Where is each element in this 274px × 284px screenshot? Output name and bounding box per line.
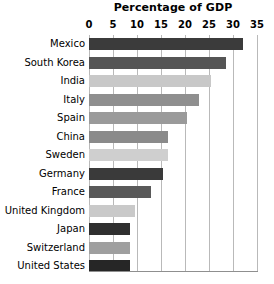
bar — [89, 223, 130, 235]
category-label: United States — [0, 260, 85, 272]
plot-area — [89, 35, 257, 272]
x-tick-label-5: 5 — [110, 19, 117, 30]
bar — [89, 57, 226, 69]
category-labels: MexicoSouth KoreaIndiaItalySpainChinaSwe… — [0, 35, 85, 272]
category-label: Switzerland — [0, 242, 85, 254]
x-tick-label-15: 15 — [154, 19, 168, 30]
category-label: Germany — [0, 168, 85, 180]
bar — [89, 168, 163, 180]
bars-group — [89, 35, 257, 272]
category-label: China — [0, 131, 85, 143]
x-tick-label-25: 25 — [202, 19, 216, 30]
category-label: Italy — [0, 94, 85, 106]
x-tick-label-30: 30 — [226, 19, 240, 30]
x-tick-label-35: 35 — [250, 19, 264, 30]
category-label: India — [0, 75, 85, 87]
bar — [89, 112, 187, 124]
bar — [89, 242, 130, 254]
category-label: Spain — [0, 112, 85, 124]
bar — [89, 149, 168, 161]
category-label: Japan — [0, 223, 85, 235]
bar — [89, 38, 243, 50]
bar — [89, 131, 168, 143]
chart-title: Percentage of GDP — [88, 1, 258, 14]
x-axis-line — [89, 271, 258, 272]
category-label: Sweden — [0, 149, 85, 161]
x-tick-label-0: 0 — [86, 19, 93, 30]
category-label: South Korea — [0, 57, 85, 69]
gridline-35 — [257, 35, 258, 272]
x-tick-label-10: 10 — [130, 19, 144, 30]
category-label: United Kingdom — [0, 205, 85, 217]
bar — [89, 205, 135, 217]
bar-chart: Percentage of GDP 05101520253035 MexicoS… — [0, 0, 274, 284]
bar — [89, 186, 151, 198]
bar — [89, 75, 211, 87]
category-label: Mexico — [0, 38, 85, 50]
bar — [89, 94, 199, 106]
x-axis-tick-labels: 05101520253035 — [0, 19, 274, 33]
category-label: France — [0, 186, 85, 198]
x-tick-label-20: 20 — [178, 19, 192, 30]
